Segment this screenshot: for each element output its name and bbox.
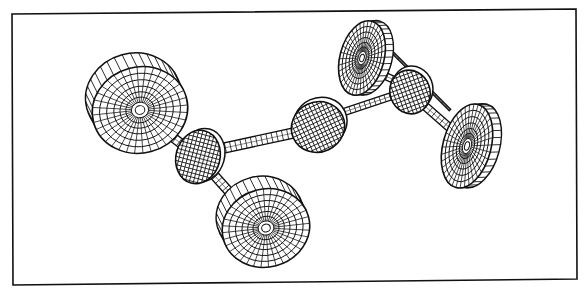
drivetrain-parts	[76, 13, 510, 277]
front-propeller-shaft	[214, 127, 299, 155]
transfer-case	[282, 89, 357, 162]
drivetrain-wireframe	[0, 0, 586, 290]
front-right-wheel	[433, 96, 510, 196]
drivetrain-figure	[0, 0, 586, 290]
